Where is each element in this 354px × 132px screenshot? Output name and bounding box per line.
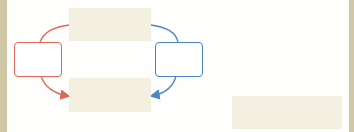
edge-top-to-left <box>40 25 69 42</box>
node-right <box>155 42 203 77</box>
edge-right-to-bottom <box>152 76 176 96</box>
node-bottom <box>69 78 151 112</box>
edge-left-to-bottom <box>41 76 68 96</box>
node-top <box>69 8 151 41</box>
edge-top-to-right <box>151 25 178 42</box>
node-left <box>14 42 62 77</box>
node-aside <box>232 96 342 129</box>
